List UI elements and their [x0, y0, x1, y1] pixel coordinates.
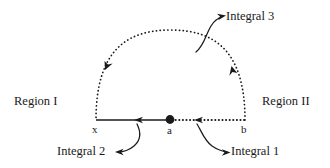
leader-line-integral-2 — [118, 124, 140, 152]
semicircular-arc-dotted — [96, 30, 245, 120]
point-b-label: b — [241, 124, 247, 135]
point-x-label: x — [92, 124, 98, 135]
region-2-label: Region II — [262, 95, 310, 108]
leader-arrowhead-integral-1 — [222, 149, 231, 155]
integral-2-label: Integral 2 — [57, 145, 105, 158]
region-1-label: Region I — [14, 95, 57, 108]
integral-3-label: Integral 3 — [226, 10, 274, 23]
point-a-label: a — [167, 125, 172, 136]
diagram-canvas — [0, 0, 330, 168]
contour-integral-diagram: Region I Region II Integral 3 Integral 2… — [0, 0, 330, 168]
pole-point-marker-a — [166, 115, 175, 124]
arc-arrowhead-right — [226, 65, 237, 76]
integral-1-label: Integral 1 — [231, 145, 279, 158]
leader-line-integral-1 — [197, 124, 227, 152]
leader-line-integral-3 — [196, 17, 223, 53]
